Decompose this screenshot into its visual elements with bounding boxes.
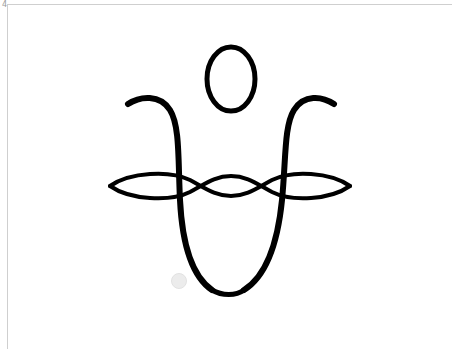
head-ellipse bbox=[207, 47, 255, 111]
meditation-figure-logo bbox=[0, 0, 452, 349]
body-base bbox=[212, 290, 244, 295]
watermark-icon bbox=[171, 273, 187, 289]
left-arm-curl bbox=[128, 98, 212, 290]
right-arm-curl bbox=[244, 98, 334, 290]
